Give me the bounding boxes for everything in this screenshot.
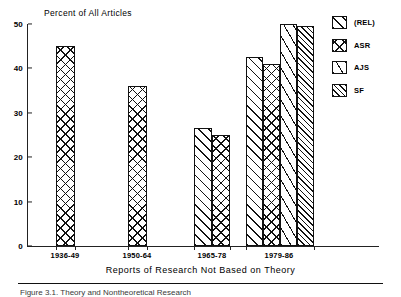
x-tick-label-4: 1979-86: [265, 251, 294, 260]
bar-sf[interactable]: [297, 26, 314, 246]
x-tick-label-2: 1950-64: [123, 251, 152, 260]
footer-divider: [18, 283, 383, 284]
bar-rel[interactable]: [246, 57, 263, 246]
y-tick-label: 30: [14, 108, 28, 117]
legend-item-ajs[interactable]: AJS: [332, 61, 375, 74]
x-tick-label-1: 1936-49: [51, 251, 80, 260]
legend-swatch-rel-icon: [332, 16, 347, 29]
legend-label-asr: ASR: [354, 41, 370, 50]
bar-asr[interactable]: [56, 46, 75, 246]
y-tick-label: 0: [18, 242, 28, 251]
y-tick-label: 20: [14, 153, 28, 162]
legend-item-sf[interactable]: SF: [332, 84, 375, 97]
x-tick-label-3: 1965-78: [198, 251, 227, 260]
bar-group-1979-86: [246, 24, 314, 246]
bar-asr[interactable]: [128, 86, 147, 246]
legend-label-rel: (REL): [354, 18, 375, 27]
figure-caption: Figure 3.1. Theory and Nontheoretical Re…: [20, 288, 191, 297]
legend-swatch-sf-icon: [332, 84, 347, 97]
bar-group-1950-64: [128, 24, 147, 246]
plot-area: 50 40 30 20 10 0: [27, 24, 379, 247]
chart-title: Percent of All Articles: [44, 8, 132, 18]
legend-swatch-ajs-icon: [332, 61, 347, 74]
y-tick-label: 40: [14, 64, 28, 73]
legend-label-sf: SF: [354, 86, 364, 95]
bar-group-1936-49: [56, 24, 75, 246]
legend-item-asr[interactable]: ASR: [332, 39, 375, 52]
y-tick-label: 10: [14, 197, 28, 206]
legend-swatch-asr-icon: [332, 39, 347, 52]
bar-group-container: [28, 24, 379, 246]
bar-group-1965-78: [194, 24, 230, 246]
legend-item-rel[interactable]: (REL): [332, 16, 375, 29]
x-axis-title: Reports of Research Not Based on Theory: [0, 265, 401, 275]
y-tick-label: 50: [14, 20, 28, 29]
legend: (REL) ASR AJS SF: [332, 16, 375, 97]
bar-asr[interactable]: [212, 135, 230, 246]
bar-ajs[interactable]: [280, 24, 297, 246]
legend-label-ajs: AJS: [354, 63, 369, 72]
bar-rel[interactable]: [194, 128, 212, 246]
bar-asr[interactable]: [263, 64, 280, 246]
figure-page: Percent of All Articles 50 40 30 20 10 0: [0, 0, 401, 297]
